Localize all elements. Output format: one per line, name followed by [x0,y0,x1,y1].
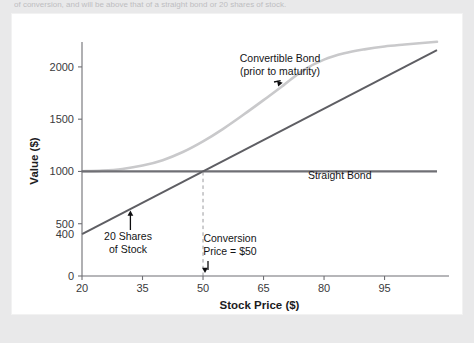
conversion-price-annotation-line2: Price = $50 [203,245,257,257]
y-tick-label: 1500 [50,113,74,125]
convertible-bond-value-chart: 0400500100015002000 203550658095 Value (… [12,14,462,314]
shares-annotation-arrowhead [128,211,134,216]
x-axis-ticks [82,276,385,280]
y-tick-label: 2000 [50,61,74,73]
x-tick-label: 35 [136,282,148,294]
y-tick-label: 400 [56,228,74,240]
x-tick-label: 20 [76,282,88,294]
y-axis-ticks [78,67,82,276]
x-axis-title: Stock Price ($) [220,299,300,311]
convertible-bond-annotation-line2: (prior to maturity) [240,65,320,77]
x-tick-label: 65 [257,282,269,294]
figure-card: 0400500100015002000 203550658095 Value (… [12,14,462,314]
shares-annotation-line2: of Stock [109,243,148,255]
y-tick-label: 500 [56,218,74,230]
straight-bond-annotation-label: Straight Bond [308,169,372,181]
conversion-price-annotation-arrowhead [202,268,208,273]
y-axis-title: Value ($) [28,137,40,184]
y-tick-label: 0 [68,270,74,282]
x-tick-label: 50 [197,282,209,294]
y-axis-tick-labels: 0400500100015002000 [50,61,74,282]
chart-plot-area: 0400500100015002000 203550658095 Value (… [12,14,462,314]
page-caption-fragment: of conversion, and will be above that of… [0,0,474,12]
x-tick-label: 95 [378,282,390,294]
series-20-shares-of-stock [82,50,437,234]
x-axis-tick-labels: 203550658095 [76,282,391,294]
y-tick-label: 1000 [50,165,74,177]
x-tick-label: 80 [318,282,330,294]
conversion-price-annotation-line1: Conversion [203,232,256,244]
convertible-bond-annotation-line1: Convertible Bond [240,52,321,64]
shares-annotation-line1: 20 Shares [104,230,152,242]
